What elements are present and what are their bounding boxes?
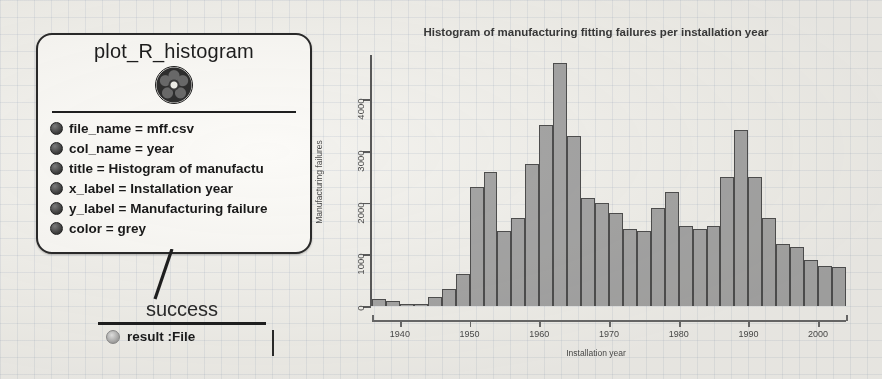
histogram-bar	[651, 208, 665, 306]
attribute-text: col_name = year	[69, 141, 174, 156]
histogram-bar	[484, 172, 498, 306]
histogram-bar	[832, 267, 846, 306]
success-port-label: result :File	[127, 329, 195, 344]
node-title: plot_R_histogram	[38, 40, 310, 63]
histogram-bar	[428, 297, 442, 306]
canvas-mark	[272, 330, 274, 356]
node-attribute-col-name[interactable]: col_name = year	[50, 138, 310, 158]
histogram-bar	[693, 229, 707, 307]
x-axis-cap	[372, 315, 374, 321]
x-axis-tick	[609, 320, 611, 327]
y-axis-tick-label: 1000	[355, 254, 366, 275]
histogram-bar	[679, 226, 693, 306]
y-axis-tick-label: 3000	[355, 151, 366, 172]
r-script-node-icon	[155, 66, 193, 104]
histogram-bar	[511, 218, 525, 306]
histogram-bar	[581, 198, 595, 307]
histogram-bar	[372, 299, 386, 306]
histogram-bar	[525, 164, 539, 306]
histogram-bar	[790, 247, 804, 306]
x-axis-tick	[818, 320, 820, 327]
attribute-text: file_name = mff.csv	[69, 121, 194, 136]
histogram-bar	[623, 229, 637, 307]
attribute-bullet-icon	[50, 122, 63, 135]
histogram-bar	[665, 192, 679, 306]
histogram-bar	[818, 266, 832, 306]
histogram-bar	[497, 231, 511, 306]
node-attribute-y-label[interactable]: y_label = Manufacturing failure	[50, 198, 310, 218]
histogram-bar	[386, 301, 400, 306]
histogram-bar	[804, 260, 818, 307]
histogram-bar	[470, 187, 484, 306]
x-axis-title: Installation year	[318, 348, 874, 358]
histogram-bar	[400, 304, 414, 306]
histogram-bar	[595, 203, 609, 306]
success-node-divider	[98, 322, 266, 325]
attribute-bullet-icon	[50, 182, 63, 195]
x-axis-tick-label: 2000	[808, 329, 828, 339]
chart-title: Histogram of manufacturing fitting failu…	[318, 26, 874, 38]
y-axis-tick-label: 0	[355, 306, 366, 311]
attribute-text: y_label = Manufacturing failure	[69, 201, 267, 216]
histogram-bar	[707, 226, 721, 306]
histogram-chart: Histogram of manufacturing fitting failu…	[318, 14, 874, 366]
x-axis-tick	[539, 320, 541, 327]
histogram-bar	[748, 177, 762, 306]
node-attribute-color[interactable]: color = grey	[50, 218, 310, 238]
connector-edge	[152, 249, 174, 301]
x-axis-tick	[679, 320, 681, 327]
x-axis-tick-label: 1940	[390, 329, 410, 339]
node-attribute-title[interactable]: title = Histogram of manufactu	[50, 158, 310, 178]
success-node-title: success	[92, 298, 272, 321]
attribute-text: title = Histogram of manufactu	[69, 161, 264, 176]
x-axis-tick-label: 1950	[460, 329, 480, 339]
histogram-bar	[539, 125, 553, 306]
success-node-port[interactable]: result :File	[92, 329, 272, 344]
attribute-bullet-icon	[50, 142, 63, 155]
attribute-text: x_label = Installation year	[69, 181, 233, 196]
plot-area	[372, 58, 846, 306]
y-axis-tick-label: 4000	[355, 99, 366, 120]
x-axis-tick-label: 1980	[669, 329, 689, 339]
histogram-bar	[414, 304, 428, 306]
screenshot-root: plot_R_histogram file_name = mff.csv col…	[0, 0, 882, 379]
x-axis-tick-label: 1990	[738, 329, 758, 339]
attribute-bullet-icon	[50, 222, 63, 235]
output-port-icon	[106, 330, 120, 344]
node-divider	[52, 111, 296, 113]
histogram-bar	[776, 244, 790, 306]
success-node[interactable]: success result :File	[92, 298, 272, 344]
node-attribute-list: file_name = mff.csv col_name = year titl…	[38, 118, 310, 238]
histogram-bars	[372, 58, 846, 306]
attribute-bullet-icon	[50, 162, 63, 175]
attribute-text: color = grey	[69, 221, 146, 236]
attribute-bullet-icon	[50, 202, 63, 215]
histogram-bar	[442, 289, 456, 306]
histogram-bar	[734, 130, 748, 306]
x-axis-cap	[846, 315, 848, 321]
histogram-bar	[609, 213, 623, 306]
x-axis-tick-label: 1970	[599, 329, 619, 339]
histogram-bar	[456, 274, 470, 306]
y-axis-title: Manufacturing failures	[312, 58, 326, 306]
histogram-bar	[553, 63, 567, 306]
node-attribute-file-name[interactable]: file_name = mff.csv	[50, 118, 310, 138]
plot-node[interactable]: plot_R_histogram file_name = mff.csv col…	[36, 33, 312, 254]
histogram-bar	[762, 218, 776, 306]
x-axis-tick	[748, 320, 750, 327]
x-axis-tick-label: 1960	[529, 329, 549, 339]
histogram-bar	[720, 177, 734, 306]
x-axis-tick	[400, 320, 402, 327]
histogram-bar	[637, 231, 651, 306]
y-axis-tick-label: 2000	[355, 202, 366, 223]
x-axis-tick	[470, 320, 472, 327]
histogram-bar	[567, 136, 581, 307]
node-attribute-x-label[interactable]: x_label = Installation year	[50, 178, 310, 198]
